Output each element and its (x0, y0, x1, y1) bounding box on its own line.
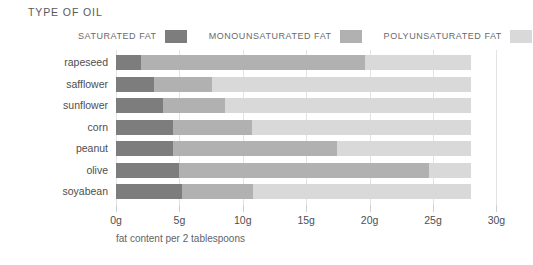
bar-segment[interactable] (225, 98, 471, 113)
bar-segment[interactable] (173, 120, 252, 135)
bar-row[interactable] (116, 55, 471, 70)
legend-swatch-saturated (165, 30, 187, 43)
page-title: TYPE OF OIL (28, 6, 103, 18)
bar-series-group (0, 50, 533, 210)
value-axis: 0g5g10g15g20g25g30g (0, 205, 533, 231)
bar-segment[interactable] (116, 77, 154, 92)
bar-segment[interactable] (116, 163, 179, 178)
axis-caption: fat content per 2 tablespoons (116, 233, 245, 244)
bar-segment[interactable] (116, 184, 182, 199)
bar-segment[interactable] (141, 55, 364, 70)
bar-row[interactable] (116, 141, 471, 156)
chart-legend: SATURATED FAT MONOUNSATURATED FAT POLYUN… (78, 28, 528, 44)
legend-item-monounsaturated: MONOUNSATURATED FAT (209, 30, 384, 43)
legend-swatch-polyunsaturated (510, 30, 532, 43)
axis-tick (433, 205, 434, 212)
bar-row[interactable] (116, 163, 471, 178)
axis-tick-label: 5g (174, 214, 186, 226)
bar-segment[interactable] (429, 163, 471, 178)
plot-area: rapeseedsafflowersunflowercornpeanutoliv… (0, 50, 533, 210)
legend-swatch-monounsaturated (340, 30, 362, 43)
bar-segment[interactable] (173, 141, 337, 156)
bar-segment[interactable] (253, 184, 471, 199)
legend-label-saturated: SATURATED FAT (78, 31, 157, 41)
axis-tick-label: 20g (361, 214, 379, 226)
legend-item-polyunsaturated: POLYUNSATURATED FAT (384, 30, 532, 43)
bar-segment[interactable] (212, 77, 471, 92)
bar-segment[interactable] (163, 98, 225, 113)
axis-tick-label: 15g (297, 214, 315, 226)
axis-tick (179, 205, 180, 212)
bar-row[interactable] (116, 184, 471, 199)
axis-tick (243, 205, 244, 212)
bar-segment[interactable] (116, 120, 173, 135)
axis-tick (116, 205, 117, 212)
bar-segment[interactable] (154, 77, 212, 92)
axis-tick-label: 0g (110, 214, 122, 226)
bar-row[interactable] (116, 120, 471, 135)
axis-tick (496, 205, 497, 212)
bar-segment[interactable] (116, 98, 163, 113)
bar-row[interactable] (116, 77, 471, 92)
legend-item-saturated: SATURATED FAT (78, 30, 209, 43)
bar-segment[interactable] (182, 184, 253, 199)
bar-row[interactable] (116, 98, 471, 113)
chart-root: TYPE OF OIL SATURATED FAT MONOUNSATURATE… (0, 0, 533, 265)
axis-tick-label: 30g (488, 214, 506, 226)
axis-tick-label: 10g (234, 214, 252, 226)
legend-label-polyunsaturated: POLYUNSATURATED FAT (384, 31, 502, 41)
bar-segment[interactable] (116, 141, 173, 156)
bar-segment[interactable] (252, 120, 471, 135)
bar-segment[interactable] (365, 55, 472, 70)
axis-tick (306, 205, 307, 212)
axis-tick (370, 205, 371, 212)
bar-segment[interactable] (337, 141, 471, 156)
bar-segment[interactable] (179, 163, 429, 178)
legend-label-monounsaturated: MONOUNSATURATED FAT (209, 31, 332, 41)
axis-tick-label: 25g (424, 214, 442, 226)
bar-segment[interactable] (116, 55, 141, 70)
